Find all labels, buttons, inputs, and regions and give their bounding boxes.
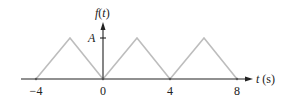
x-axis-arrow-icon xyxy=(245,77,253,82)
function-label: f(t) xyxy=(95,6,110,20)
x-tick-mark xyxy=(102,78,104,80)
x-tick-label: 8 xyxy=(234,84,240,98)
y-axis-arrow-icon xyxy=(101,22,106,30)
x-tick-mark xyxy=(35,78,37,80)
amplitude-label: A xyxy=(87,31,96,45)
x-tick-label: −4 xyxy=(30,84,43,98)
x-axis-label: t (s) xyxy=(256,72,275,86)
x-tick-mark xyxy=(169,78,171,80)
x-tick-label: 4 xyxy=(167,84,173,98)
x-tick-mark xyxy=(236,78,238,80)
x-tick-label: 0 xyxy=(100,84,106,98)
triangular-wave-figure: f(t) A t (s) −4 0 4 8 xyxy=(0,0,289,104)
plot-canvas: f(t) A t (s) −4 0 4 8 xyxy=(0,0,289,104)
triangle-wave xyxy=(36,38,237,79)
